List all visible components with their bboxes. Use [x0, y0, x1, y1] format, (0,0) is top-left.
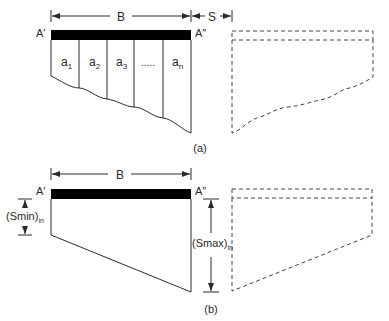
settlement-diagram: B S A′ A″ a1 a2 a3 ..... an: [0, 0, 389, 321]
footing-bar: [51, 30, 191, 40]
max-settlement-dimension: (Smax)in: [192, 199, 233, 292]
width-label: B: [116, 168, 124, 182]
spacing-label: S: [208, 10, 216, 24]
width-label: B: [117, 10, 125, 24]
min-settlement-label: (Smin)in: [6, 210, 44, 224]
min-settlement-dimension: (Smin)in: [6, 199, 44, 235]
width-dimension-b: B: [51, 10, 191, 24]
right-edge-label: A″: [195, 185, 206, 197]
figure-a: B S A′ A″ a1 a2 a3 ..... an: [36, 10, 373, 154]
strip-label-2: a2: [89, 55, 101, 71]
adjacent-footing-dashed: [232, 31, 373, 133]
spacing-dimension-s: S: [192, 10, 232, 24]
left-edge-label: A′: [36, 27, 45, 39]
caption-a: (a): [193, 142, 206, 154]
width-dimension-b2: B: [51, 168, 191, 182]
max-settlement-label: (Smax)in: [192, 237, 233, 251]
left-edge-label: A′: [36, 185, 45, 197]
strip-label-3: a3: [116, 55, 128, 71]
figure-b: B A′ A″ (Smin)in (Smax)in (b): [6, 168, 372, 315]
adjacent-footing-dashed: [232, 189, 372, 291]
settlement-profile: [51, 40, 191, 133]
right-edge-label: A″: [195, 27, 206, 39]
footing-bar: [51, 189, 191, 199]
strip-label-1: a1: [61, 55, 73, 71]
linear-settlement-profile: [51, 199, 191, 292]
strip-label-n: an: [172, 55, 183, 71]
caption-b: (b): [204, 303, 217, 315]
strip-label-ellipsis: .....: [141, 57, 155, 68]
